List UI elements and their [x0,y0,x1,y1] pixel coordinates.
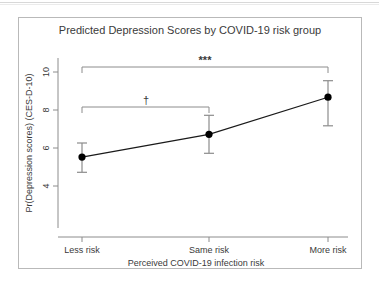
error-bar-more-risk [323,81,333,126]
x-tick-label-same-risk: Same risk [189,245,230,255]
significance-bracket-all: *** [82,54,328,73]
trend-line [82,97,328,157]
significance-label-dagger: † [143,94,149,106]
x-tick-label-more-risk: More risk [309,245,347,255]
y-tick-label-8: 8 [41,107,51,112]
data-point-less-risk [78,154,85,161]
chart-canvas: Predicted Depression Scores by COVID-19 … [0,0,379,284]
data-point-same-risk [205,131,212,138]
x-axis-label: Perceived COVID-19 infection risk [128,258,265,268]
y-tick-label-6: 6 [41,145,51,150]
x-tick-label-less-risk: Less risk [64,245,100,255]
significance-label-stars: *** [199,54,213,66]
chart-title: Predicted Depression Scores by COVID-19 … [59,24,321,36]
y-tick-label-10: 10 [41,67,51,77]
y-tick-label-4: 4 [41,183,51,188]
significance-bracket-adjacent: † [82,94,209,113]
data-point-more-risk [324,94,331,101]
y-axis-label: Pr(Depression scores) (CES-D-10) [24,73,34,212]
